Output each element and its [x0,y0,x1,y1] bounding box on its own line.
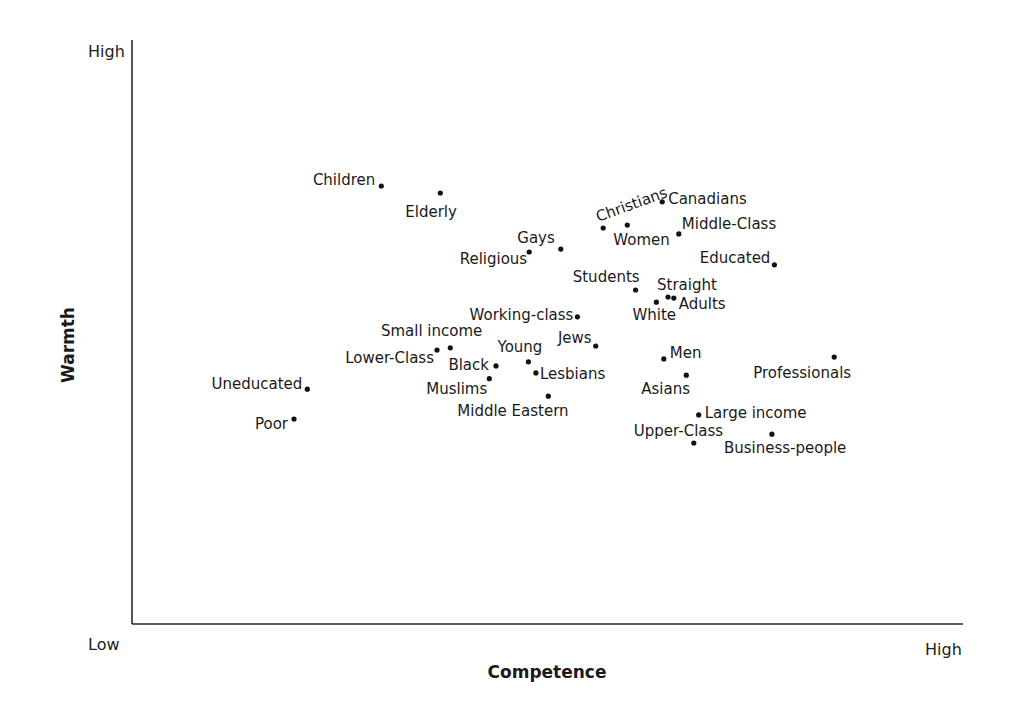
point-label: Working-class [470,306,574,324]
point-label: Middle Eastern [457,402,568,420]
point-marker [601,225,606,230]
data-point: Children [313,171,384,189]
point-label: Poor [255,415,289,433]
data-point: Elderly [405,190,457,221]
point-marker [665,294,670,299]
point-marker [772,262,777,267]
point-marker [533,370,538,375]
x-tick-high: High [925,640,962,659]
point-marker [625,223,630,228]
axes [132,40,963,624]
point-label: Uneducated [211,375,302,393]
point-marker [684,373,689,378]
x-tick-low: Low [88,635,120,654]
data-point: Gays [517,229,563,252]
data-point: Upper-Class [634,422,724,446]
point-marker [691,440,696,445]
point-marker [487,376,492,381]
data-point: Lesbians [533,365,605,383]
data-point: Poor [255,415,297,433]
point-label: Large income [705,404,807,422]
data-point: Uneducated [211,375,309,393]
point-label: Small income [381,322,482,340]
data-point: Religious [460,249,532,268]
point-label: Elderly [405,203,457,221]
point-marker [305,387,310,392]
point-marker [448,345,453,350]
point-label: Middle-Class [682,215,777,233]
y-axis-title: Warmth [58,307,78,383]
data-point: Students [573,268,640,293]
point-marker [633,287,638,292]
point-marker [661,356,666,361]
point-label: Asians [641,380,690,398]
data-point: Canadians [660,190,747,208]
point-label: Professionals [753,364,851,382]
point-label: Young [497,338,543,356]
point-marker [696,412,701,417]
scatter-chart: High Low High Competence Warmth Children… [0,0,1009,724]
point-marker [654,300,659,305]
data-point: Christians [593,183,670,230]
point-label: Black [448,356,489,374]
data-point: Lower-Class [345,348,439,368]
point-marker [379,183,384,188]
data-point: Large income [696,404,807,422]
data-point: Men [661,344,701,362]
point-label: Children [313,171,375,189]
point-marker [493,363,498,368]
point-marker [558,247,563,252]
point-label: Lesbians [540,365,606,383]
y-tick-high: High [88,42,125,61]
point-marker [434,348,439,353]
point-marker [671,296,676,301]
data-point: Working-class [470,306,580,324]
data-point: Middle-Class [676,215,776,237]
data-points: ChildrenElderlyChristiansWomenCanadiansM… [211,171,851,457]
point-label: Business-people [724,439,846,457]
point-marker [593,343,598,348]
point-marker [546,394,551,399]
data-point: Small income [381,322,482,351]
data-point: Muslims [426,376,492,398]
point-label: Upper-Class [634,422,724,440]
point-marker [660,199,665,204]
point-marker [676,231,681,236]
point-marker [527,249,532,254]
point-label: Christians [593,183,670,226]
data-point: Business-people [724,432,846,458]
point-label: Students [573,268,640,286]
point-marker [575,314,580,319]
data-point: Educated [700,249,777,268]
point-marker [526,359,531,364]
point-label: White [632,306,676,324]
point-label: Gays [517,229,555,247]
point-label: Canadians [668,190,747,208]
x-axis-title: Competence [488,662,607,682]
data-point: White [632,300,676,325]
point-label: Religious [460,250,528,268]
data-point: Black [448,356,498,374]
point-label: Lower-Class [345,349,434,367]
data-point: Adults [671,295,726,313]
data-point: Women [613,223,669,250]
point-marker [291,416,296,421]
point-marker [769,432,774,437]
point-marker [832,355,837,360]
point-marker [438,190,443,195]
point-label: Women [613,231,669,249]
point-label: Adults [679,295,726,313]
data-point: Jews [557,329,598,349]
data-point: Young [497,338,543,365]
point-label: Jews [557,329,592,347]
point-label: Men [670,344,702,362]
point-label: Muslims [426,380,487,398]
point-label: Straight [657,276,717,294]
data-point: Asians [641,373,690,399]
data-point: Professionals [753,355,851,383]
point-label: Educated [700,249,771,267]
